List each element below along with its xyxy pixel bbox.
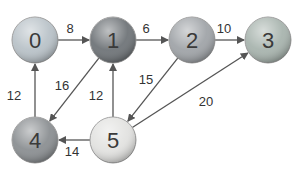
edge-5-to-3 — [132, 53, 248, 128]
graph-svg: 8610161212152014 012345 — [0, 0, 300, 173]
node-3: 3 — [245, 17, 291, 63]
node-label: 0 — [29, 28, 41, 53]
edge-weight-label: 20 — [199, 94, 213, 109]
node-label: 2 — [186, 28, 198, 53]
edge-weight-label: 15 — [139, 72, 153, 87]
edge-weight-label: 12 — [7, 88, 21, 103]
edge-weight-label: 16 — [55, 78, 69, 93]
edge-2-to-5 — [128, 58, 178, 121]
node-5: 5 — [90, 117, 136, 163]
node-2: 2 — [169, 17, 215, 63]
edge-weight-label: 10 — [217, 21, 231, 36]
node-4: 4 — [12, 117, 58, 163]
node-label: 1 — [107, 28, 119, 53]
node-0: 0 — [12, 17, 58, 63]
edge-weight-label: 6 — [142, 21, 149, 36]
edge-weight-label: 12 — [89, 88, 103, 103]
node-label: 4 — [29, 128, 41, 153]
node-label: 5 — [107, 128, 119, 153]
node-1: 1 — [90, 17, 136, 63]
edge-weight-label: 14 — [65, 144, 79, 159]
node-label: 3 — [262, 28, 274, 53]
edge-weight-label: 8 — [66, 21, 73, 36]
graph-diagram: 8610161212152014 012345 — [0, 0, 300, 173]
